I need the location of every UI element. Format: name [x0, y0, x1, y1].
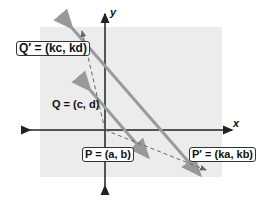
point-label-q-prime: Q′ = (kc, kd) [16, 41, 90, 56]
coordinate-plane [0, 0, 268, 203]
x-axis-label: x [233, 117, 239, 129]
point-label-p: P = (a, b) [82, 147, 134, 162]
point-label-q: Q = (c, d) [52, 98, 99, 111]
point-label-p-prime: P′ = (ka, kb) [189, 147, 256, 162]
y-axis-label: y [110, 6, 116, 18]
